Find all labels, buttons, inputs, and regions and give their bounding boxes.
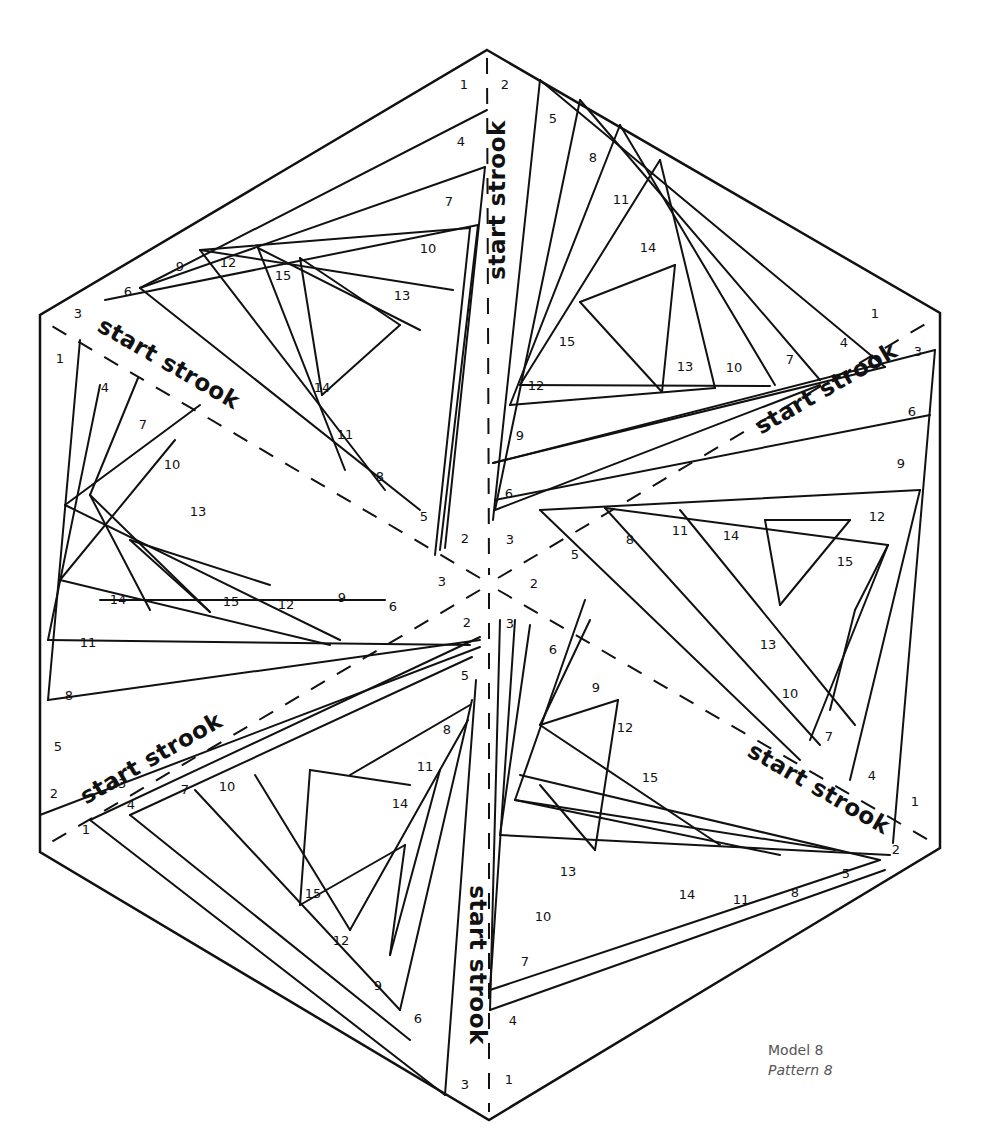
strip-line <box>660 160 715 388</box>
strip-number: 11 <box>733 892 750 907</box>
strip-number: 3 <box>438 574 446 589</box>
strip-number: 14 <box>110 592 127 607</box>
strip-line <box>580 302 662 392</box>
strip-line <box>130 540 270 585</box>
strip-number: 7 <box>825 729 833 744</box>
start-strook-labels: start strookstart strookstart strookstar… <box>75 120 901 1045</box>
strip-number: 7 <box>521 954 529 969</box>
strip-number: 5 <box>549 111 557 126</box>
strip-number: 7 <box>445 194 453 209</box>
strip-number: 13 <box>760 637 777 652</box>
strip-number: 12 <box>220 255 237 270</box>
strip-line <box>490 620 515 990</box>
strip-line <box>440 225 478 550</box>
strip-line <box>140 110 487 288</box>
strip-number: 15 <box>559 334 576 349</box>
strip-line <box>310 770 410 785</box>
strip-number: 3 <box>506 532 514 547</box>
strip-number: 14 <box>314 380 331 395</box>
strip-number: 8 <box>376 469 384 484</box>
start-strook-label: start strook <box>743 737 894 839</box>
strip-number: 12 <box>528 378 545 393</box>
strip-number: 4 <box>840 335 848 350</box>
strip-number: 2 <box>50 786 58 801</box>
strip-number: 11 <box>337 427 354 442</box>
strip-line <box>662 265 675 392</box>
strip-line <box>540 490 920 510</box>
strip-line <box>48 640 470 645</box>
strip-number: 7 <box>181 782 189 797</box>
strip-line <box>540 785 595 850</box>
strip-line <box>765 520 780 605</box>
strip-number: 9 <box>592 680 600 695</box>
strip-number: 6 <box>124 284 132 299</box>
strip-number: 5 <box>842 866 850 881</box>
strip-number: 9 <box>176 259 184 274</box>
strip-line <box>893 350 935 843</box>
strip-number: 11 <box>672 523 689 538</box>
strip-number: 2 <box>501 77 509 92</box>
strip-number: 13 <box>560 864 577 879</box>
strip-line <box>48 340 80 700</box>
strip-number: 8 <box>589 150 597 165</box>
strip-number: 15 <box>223 594 240 609</box>
strip-line <box>258 248 345 470</box>
start-strook-label: start strook <box>75 707 226 809</box>
strip-number: 1 <box>82 822 90 837</box>
strip-line <box>322 325 400 395</box>
strip-line <box>490 860 880 990</box>
strip-number: 1 <box>460 77 468 92</box>
strip-number: 3 <box>461 1077 469 1092</box>
strip-number: 15 <box>275 268 292 283</box>
start-strook-label: start strook <box>750 337 901 439</box>
strip-line <box>520 385 770 386</box>
strip-number: 2 <box>530 576 538 591</box>
strip-line <box>445 167 485 548</box>
strip-number: 10 <box>420 241 437 256</box>
pattern-label: Pattern 8 <box>768 1060 833 1080</box>
strip-number: 1 <box>505 1072 513 1087</box>
strip-number: 4 <box>509 1013 517 1028</box>
strip-line <box>540 725 720 845</box>
strip-number: 12 <box>617 720 634 735</box>
strip-number: 2 <box>463 615 471 630</box>
strip-line <box>60 580 330 645</box>
strip-line <box>850 490 920 780</box>
strip-line <box>300 770 310 905</box>
strip-number: 6 <box>389 599 397 614</box>
strip-number: 4 <box>457 134 465 149</box>
strip-number: 5 <box>571 547 579 562</box>
strip-number: 9 <box>338 590 346 605</box>
start-strook-label: start strook <box>484 120 510 280</box>
strip-number: 9 <box>374 978 382 993</box>
strip-number: 4 <box>868 768 876 783</box>
strip-number: 8 <box>626 532 634 547</box>
strip-number: 9 <box>516 428 524 443</box>
strip-line <box>605 508 820 745</box>
strip-number: 1 <box>871 306 879 321</box>
strip-number: 10 <box>726 360 743 375</box>
strip-number: 8 <box>65 688 73 703</box>
strip-number: 13 <box>394 288 411 303</box>
strip-number: 10 <box>782 686 799 701</box>
strip-number: 15 <box>642 770 659 785</box>
strip-number: 13 <box>677 359 694 374</box>
strip-line <box>540 80 885 367</box>
strip-number: 10 <box>535 909 552 924</box>
strip-line <box>515 600 585 800</box>
strip-number: 7 <box>786 352 794 367</box>
strip-line <box>90 820 445 1095</box>
strip-number: 6 <box>414 1011 422 1026</box>
strip-number: 1 <box>911 794 919 809</box>
strip-number: 14 <box>723 528 740 543</box>
strip-line <box>495 415 930 500</box>
strip-number: 15 <box>837 554 854 569</box>
strip-number: 5 <box>461 668 469 683</box>
strip-number: 2 <box>461 531 469 546</box>
strip-line <box>48 640 480 700</box>
strip-number: 6 <box>505 486 513 501</box>
strip-line <box>140 167 485 288</box>
strip-number: 4 <box>127 797 135 812</box>
strip-number: 2 <box>892 842 900 857</box>
strip-number: 10 <box>219 779 236 794</box>
